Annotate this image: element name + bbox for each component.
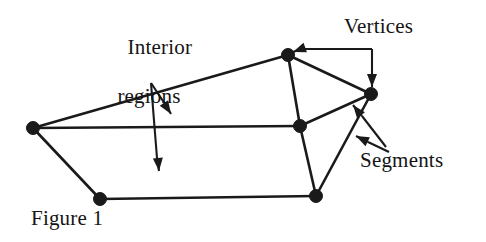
leader-segments-lower-arrow-icon	[356, 136, 370, 146]
label-interior-regions-line1: Interior	[128, 35, 193, 59]
label-interior-regions-line2: regions	[74, 84, 224, 109]
segment-v-bottom-right-to-v-bottom-left	[100, 196, 316, 199]
leader-vertices-top-arrow-icon	[293, 43, 307, 52]
segment-v-top-to-v-right	[288, 55, 371, 94]
label-interior-regions: Interior regions	[74, 10, 224, 157]
figure-caption: Figure 1	[31, 206, 103, 231]
vertex-v-bottom-left	[94, 193, 107, 206]
leader-vertices-right-arrow-icon	[367, 74, 377, 87]
figure-container: Interior regions Vertices Segments Figur…	[0, 0, 486, 242]
segment-v-right-to-v-bottom-right	[316, 94, 371, 196]
vertex-v-right	[365, 88, 378, 101]
vertex-v-bottom-right	[310, 190, 323, 203]
label-segments: Segments	[360, 148, 443, 173]
segment-v-top-to-v-center	[288, 55, 300, 126]
segment-v-center-to-v-bottom-right	[300, 126, 316, 196]
vertex-v-left	[27, 122, 40, 135]
vertex-v-center	[294, 120, 307, 133]
vertex-v-top	[282, 49, 295, 62]
label-vertices: Vertices	[344, 14, 413, 39]
